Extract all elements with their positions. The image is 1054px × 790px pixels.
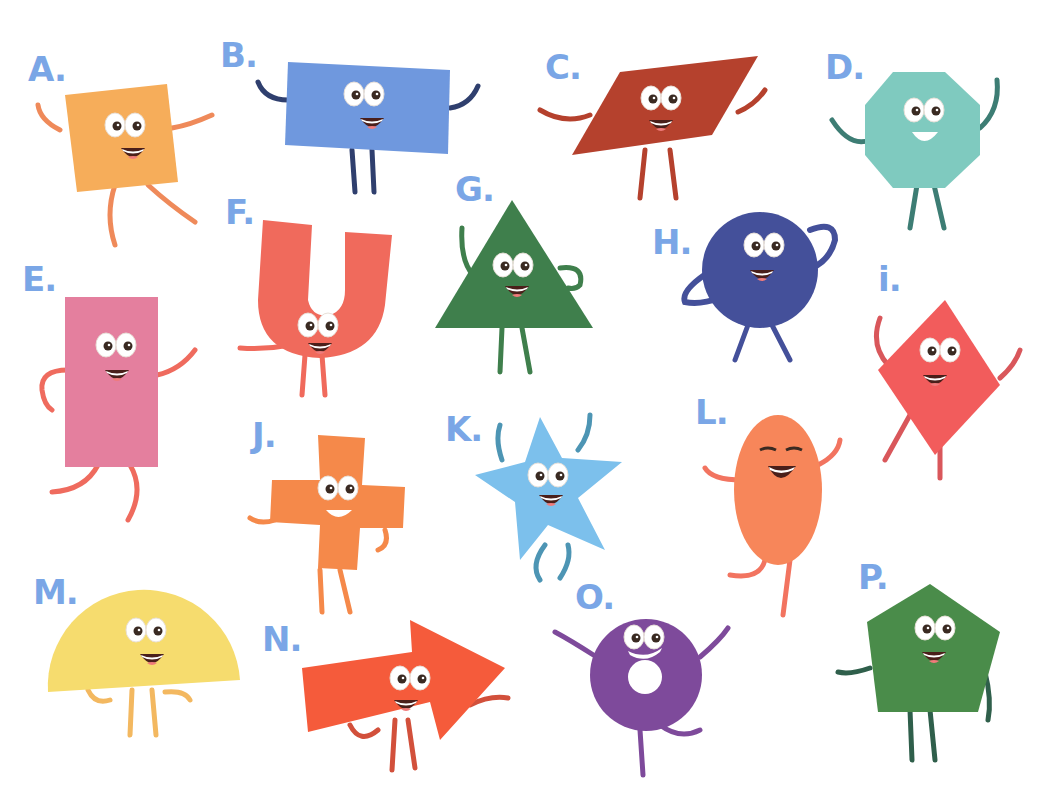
character-l-oval — [705, 415, 840, 615]
character-j-cross — [250, 435, 405, 612]
character-d-octagon — [832, 72, 997, 228]
character-k-star — [475, 415, 622, 580]
character-c-parallelogram — [540, 56, 765, 198]
character-i-rhombus — [876, 300, 1020, 478]
character-n-arrow — [302, 620, 508, 770]
character-g-triangle — [435, 200, 593, 372]
character-h-circle — [684, 212, 835, 360]
character-e-rectangle — [42, 297, 195, 520]
character-o-ring — [555, 619, 728, 775]
character-m-semicircle — [48, 590, 240, 735]
character-f-u-shape — [240, 220, 392, 395]
character-b-rectangle — [258, 62, 478, 192]
character-p-pentagon — [838, 584, 1000, 760]
shapes-canvas — [0, 0, 1054, 790]
shapes-worksheet: A. B. C. D. E. F. G. H. i. J. K. L. M. N… — [0, 0, 1054, 790]
character-a-square — [38, 84, 212, 245]
